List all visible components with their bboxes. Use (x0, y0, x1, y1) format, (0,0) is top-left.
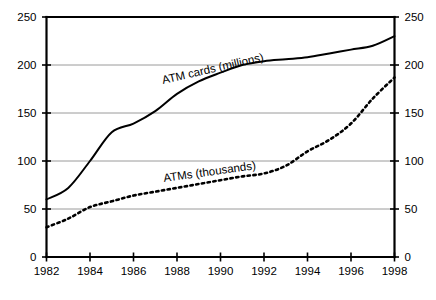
y-axis-label-right-50: 50 (405, 203, 418, 215)
axes-group (47, 17, 395, 257)
series-line-atms (47, 77, 395, 227)
y-axis-label-right-100: 100 (405, 155, 424, 167)
x-axis-label-1998: 1998 (382, 265, 408, 277)
y-axis-label-left-100: 100 (17, 155, 36, 167)
x-axis-label-1992: 1992 (251, 265, 277, 277)
chart-canvas: 0050501001001501502002002502501982198419… (0, 0, 436, 300)
series-annotation-1: ATMs (thousands) (163, 159, 257, 184)
x-axis-label-1984: 1984 (77, 265, 103, 277)
y-axis-label-right-200: 200 (405, 59, 424, 71)
y-axis-label-left-150: 150 (17, 107, 36, 119)
atm-growth-line-chart: 0050501001001501502002002502501982198419… (0, 0, 436, 300)
y-axis-label-left-0: 0 (30, 251, 36, 263)
series-annotations-group: ATM cards (millions)ATMs (thousands) (161, 51, 265, 184)
y-axis-label-right-250: 250 (405, 11, 424, 23)
series-annotation-0: ATM cards (millions) (161, 51, 265, 86)
x-axis-label-1988: 1988 (164, 265, 190, 277)
y-axis-label-left-50: 50 (24, 203, 37, 215)
x-axis-label-1996: 1996 (338, 265, 364, 277)
y-axis-label-right-150: 150 (405, 107, 424, 119)
gridlines-group (47, 65, 395, 209)
x-axis-label-1986: 1986 (121, 265, 147, 277)
y-axis-label-left-250: 250 (17, 11, 36, 23)
x-axis-label-1982: 1982 (34, 265, 60, 277)
x-axis-label-1994: 1994 (295, 265, 321, 277)
tick-labels-group: 0050501001001501502002002502501982198419… (17, 11, 423, 277)
tick-marks-group (42, 17, 399, 262)
y-axis-label-right-0: 0 (405, 251, 411, 263)
y-axis-label-left-200: 200 (17, 59, 36, 71)
x-axis-label-1990: 1990 (208, 265, 234, 277)
